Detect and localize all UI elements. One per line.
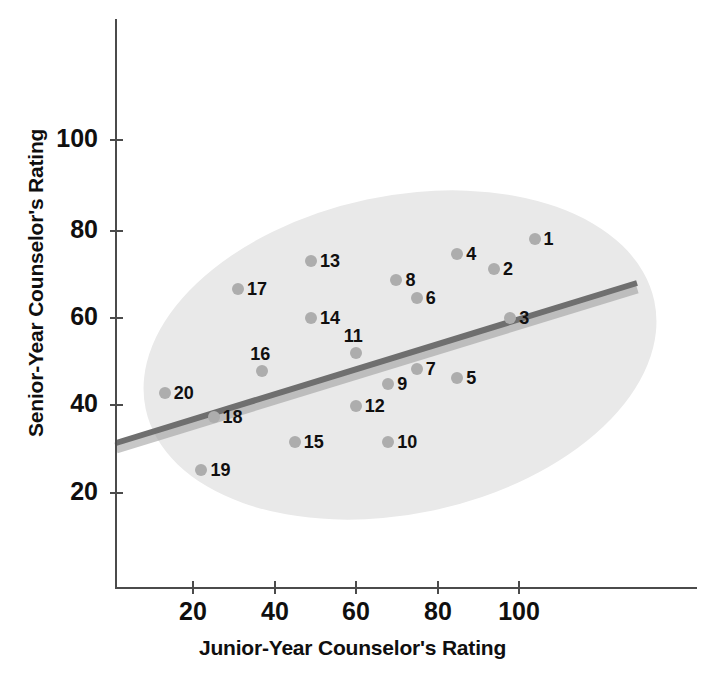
data-point-label-11: 11: [344, 326, 363, 347]
data-point-label-3: 3: [519, 308, 529, 329]
x-tick-label-100: 100: [479, 597, 559, 626]
data-point-label-8: 8: [405, 270, 415, 291]
y-tick-80: [110, 230, 123, 232]
data-point-10: [382, 436, 394, 448]
x-tick-40: [274, 581, 276, 594]
x-tick-60: [355, 581, 357, 594]
concentration-ellipse: [113, 145, 688, 564]
scatter-plot-figure: 100 80 60 40 20 20 40 60 80 100 Senior-Y…: [0, 0, 705, 677]
x-tick-label-20: 20: [153, 597, 233, 626]
data-point-20: [159, 387, 171, 399]
data-point-label-17: 17: [247, 279, 267, 300]
data-point-label-5: 5: [466, 368, 476, 389]
x-tick-100: [518, 581, 520, 594]
data-point-5: [451, 372, 463, 384]
data-point-13: [305, 255, 317, 267]
data-point-label-10: 10: [397, 432, 417, 453]
y-tick-100: [110, 139, 123, 141]
data-point-7: [411, 363, 423, 375]
data-point-label-18: 18: [223, 407, 243, 428]
y-tick-60: [110, 317, 123, 319]
y-tick-40: [110, 404, 123, 406]
y-axis-line: [115, 19, 117, 589]
data-point-label-9: 9: [397, 374, 407, 395]
y-axis-title: Senior-Year Counselor's Rating: [24, 157, 48, 437]
data-point-15: [289, 436, 301, 448]
data-point-18: [208, 411, 220, 423]
x-axis-title: Junior-Year Counselor's Rating: [0, 636, 705, 660]
data-point-11: [350, 347, 362, 359]
data-point-3: [504, 312, 516, 324]
data-point-label-2: 2: [503, 259, 513, 280]
x-tick-label-60: 60: [316, 597, 396, 626]
data-point-label-12: 12: [365, 396, 385, 417]
data-point-6: [411, 292, 423, 304]
data-point-label-1: 1: [544, 229, 554, 250]
data-point-label-6: 6: [426, 288, 436, 309]
x-tick-label-40: 40: [235, 597, 315, 626]
y-tick-20: [110, 492, 123, 494]
data-point-14: [305, 312, 317, 324]
x-tick-80: [437, 581, 439, 594]
data-point-1: [529, 233, 541, 245]
y-tick-label-20: 20: [36, 477, 98, 506]
data-point-label-15: 15: [304, 432, 324, 453]
x-axis-line: [116, 587, 697, 589]
data-point-12: [350, 400, 362, 412]
data-point-label-4: 4: [466, 244, 476, 265]
data-point-label-14: 14: [320, 308, 340, 329]
data-point-label-20: 20: [174, 383, 194, 404]
x-tick-label-80: 80: [398, 597, 478, 626]
data-point-label-13: 13: [320, 251, 340, 272]
x-tick-20: [192, 581, 194, 594]
data-point-label-7: 7: [426, 359, 436, 380]
data-point-label-19: 19: [210, 460, 230, 481]
data-point-label-16: 16: [250, 344, 270, 365]
